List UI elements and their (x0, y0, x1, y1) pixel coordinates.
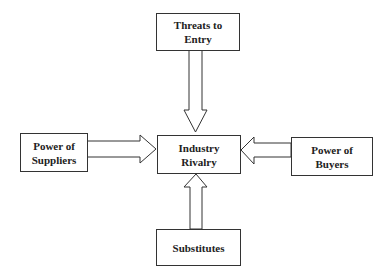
node-industry-rivalry: Industry Rivalry (157, 135, 241, 174)
node-label: Threats to Entry (174, 18, 222, 46)
arrow-threats-to-rivalry (184, 50, 207, 132)
node-label: Power of Buyers (311, 143, 353, 171)
node-label: Industry Rivalry (179, 141, 220, 169)
arrow-suppliers-to-rivalry (87, 135, 156, 163)
node-label: Power of Suppliers (32, 139, 77, 167)
node-power-of-buyers: Power of Buyers (291, 137, 373, 176)
arrow-substitutes-to-rivalry (184, 174, 207, 229)
node-label: Substitutes (173, 241, 225, 255)
arrow-buyers-to-rivalry (241, 137, 291, 164)
five-forces-diagram: Threats to Entry Power of Suppliers Indu… (0, 0, 391, 279)
node-power-of-suppliers: Power of Suppliers (20, 133, 88, 172)
node-threats-to-entry: Threats to Entry (156, 13, 240, 51)
node-substitutes: Substitutes (156, 229, 241, 266)
